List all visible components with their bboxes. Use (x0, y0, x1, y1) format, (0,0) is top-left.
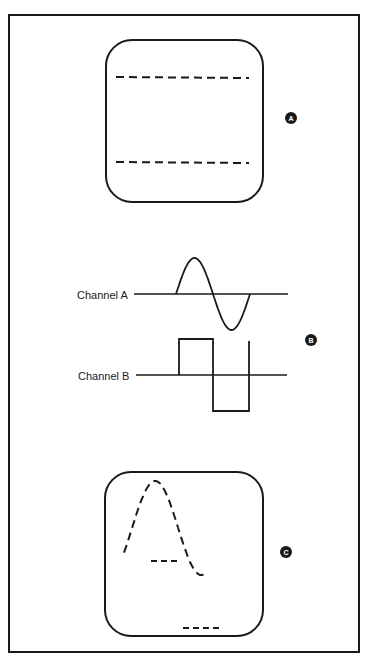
panel-c: C (105, 472, 292, 636)
trace-lower (116, 162, 249, 163)
channel-a-label: Channel A (77, 289, 128, 301)
channel-b-label: Channel B (78, 370, 129, 382)
badge-b-label: B (308, 337, 313, 344)
panel-a: A (106, 40, 297, 202)
panel-b: Channel A Channel B B (77, 258, 317, 411)
screen-c (105, 472, 263, 636)
badge-c-label: C (283, 549, 288, 556)
diagram-canvas: A Channel A Channel B B C (0, 0, 368, 663)
trace-upper (116, 77, 249, 78)
badge-a-label: A (288, 115, 293, 122)
screen-a (106, 40, 263, 202)
